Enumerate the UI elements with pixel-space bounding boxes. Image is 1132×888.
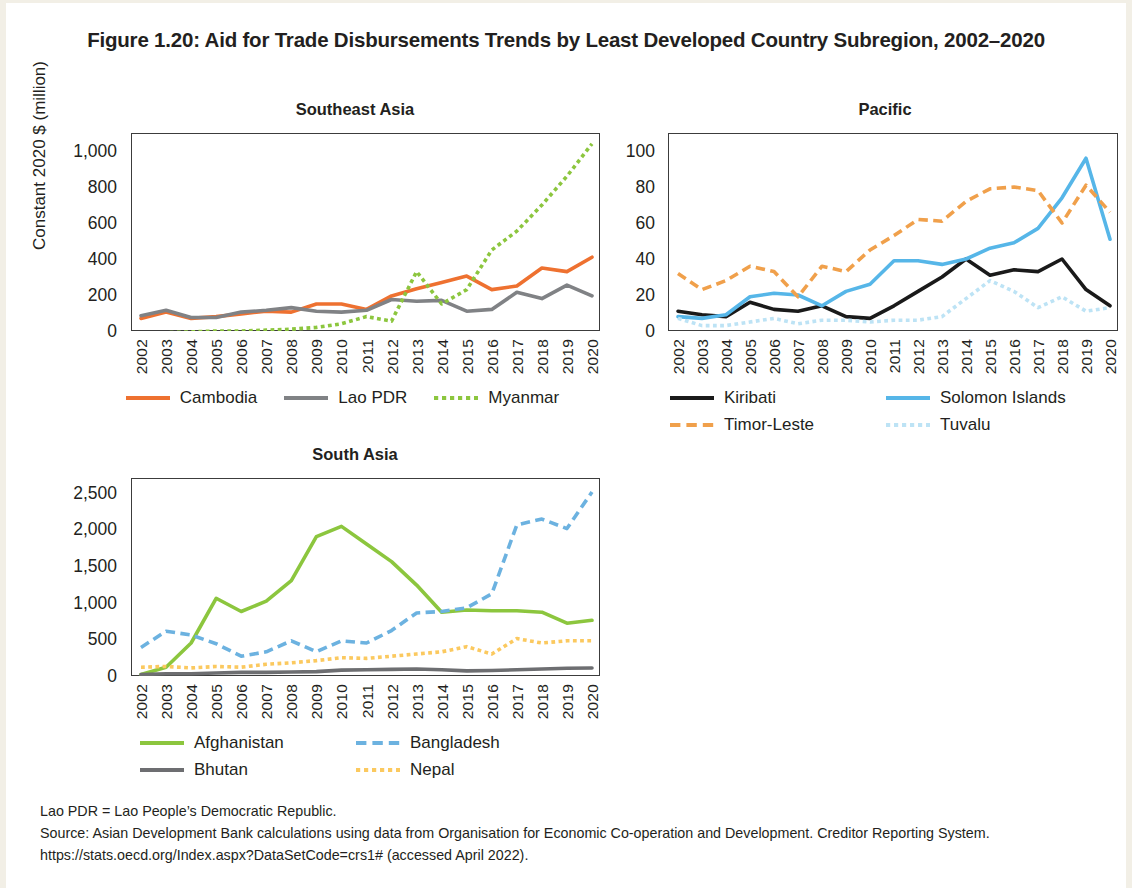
x-tick-label: 2007 <box>258 684 276 719</box>
x-axis-south-asia: 2002200320042005200620072008200920102011… <box>131 680 600 740</box>
legend-swatch-icon <box>355 734 401 752</box>
x-tick-label: 2012 <box>910 339 928 374</box>
legend-swatch-icon <box>139 761 185 779</box>
x-tick-label: 2012 <box>384 339 402 374</box>
y-tick-label: 400 <box>43 249 126 270</box>
x-tick-label: 2006 <box>233 684 251 719</box>
y-tick-label: 1,500 <box>41 556 126 577</box>
figure-notes: Lao PDR = Lao People’s Democratic Republ… <box>40 800 1100 866</box>
x-tick-label: 2002 <box>670 339 688 374</box>
x-tick-label: 2014 <box>434 684 452 719</box>
legend-item-nepal[interactable]: Nepal <box>355 760 545 780</box>
x-tick-label: 2019 <box>559 684 577 719</box>
legend-item-solomon-islands[interactable]: Solomon Islands <box>885 388 1075 408</box>
legend-item-cambodia[interactable]: Cambodia <box>125 388 258 408</box>
y-tick-label: 1,000 <box>43 141 126 162</box>
y-tick-label: 0 <box>41 666 126 687</box>
legend-item-kiribati[interactable]: Kiribati <box>669 388 859 408</box>
panel-southeast-asia: Southeast Asia 02004006008001,000 200220… <box>110 100 600 430</box>
note-abbreviation: Lao PDR = Lao People’s Democratic Republ… <box>40 800 1100 822</box>
x-tick-label: 2006 <box>766 339 784 374</box>
legend-label: Tuvalu <box>940 415 990 435</box>
x-axis-pacific: 2002200320042005200620072008200920102011… <box>668 335 1118 395</box>
legend-swatch-icon <box>885 389 931 407</box>
x-tick-label: 2006 <box>233 339 251 374</box>
x-tick-label: 2003 <box>694 339 712 374</box>
legend-swatch-icon <box>139 734 185 752</box>
x-tick-label: 2010 <box>333 339 351 374</box>
x-tick-label: 2013 <box>934 339 952 374</box>
y-tick-label: 200 <box>43 285 126 306</box>
legend-item-lao-pdr[interactable]: Lao PDR <box>283 388 407 408</box>
x-tick-label: 2016 <box>484 684 502 719</box>
legend-item-tuvalu[interactable]: Tuvalu <box>885 415 1075 435</box>
legend-label: Kiribati <box>724 388 776 408</box>
y-tick-label: 20 <box>593 285 664 306</box>
plot-area-pacific <box>668 133 1118 331</box>
x-tick-label: 2003 <box>158 339 176 374</box>
series-canvas-southeast-asia <box>131 133 600 331</box>
y-tick-label: 40 <box>593 249 664 270</box>
x-tick-label: 2019 <box>559 339 577 374</box>
note-source: Source: Asian Development Bank calculati… <box>40 822 1100 866</box>
legend-item-afghanistan[interactable]: Afghanistan <box>139 733 329 753</box>
x-tick-label: 2013 <box>409 339 427 374</box>
x-tick-label: 2017 <box>1030 339 1048 374</box>
legend-label: Lao PDR <box>338 388 407 408</box>
x-tick-label: 2008 <box>283 339 301 374</box>
plot-area-south-asia <box>131 478 600 676</box>
y-tick-label: 500 <box>41 629 126 650</box>
panel-title-southeast-asia: Southeast Asia <box>110 100 600 119</box>
y-tick-label: 80 <box>593 177 664 198</box>
x-tick-label: 2020 <box>584 684 602 719</box>
legend-southeast-asia: CambodiaLao PDRMyanmar <box>110 388 600 415</box>
x-tick-label: 2008 <box>814 339 832 374</box>
x-tick-label: 2014 <box>434 339 452 374</box>
x-tick-label: 2004 <box>183 339 201 374</box>
x-tick-label: 2019 <box>1078 339 1096 374</box>
series-line-myanmar <box>141 144 592 331</box>
legend-item-myanmar[interactable]: Myanmar <box>433 388 559 408</box>
x-tick-label: 2003 <box>158 684 176 719</box>
legend-item-bhutan[interactable]: Bhutan <box>139 760 329 780</box>
legend-swatch-icon <box>433 389 479 407</box>
legend-item-timor-leste[interactable]: Timor-Leste <box>669 415 859 435</box>
x-tick-label: 2004 <box>183 684 201 719</box>
legend-label: Timor-Leste <box>724 415 814 435</box>
legend-item-bangladesh[interactable]: Bangladesh <box>355 733 545 753</box>
x-tick-label: 2002 <box>133 339 151 374</box>
y-axis-south-asia: 05001,0001,5002,0002,500 <box>50 478 126 676</box>
panel-south-asia: South Asia 05001,0001,5002,0002,500 2002… <box>110 445 600 805</box>
x-axis-southeast-asia: 2002200320042005200620072008200920102011… <box>131 335 600 395</box>
series-line-kiribati <box>678 259 1110 318</box>
y-tick-label: 100 <box>593 141 664 162</box>
series-line-solomon-islands <box>678 158 1110 318</box>
x-tick-label: 2015 <box>459 684 477 719</box>
x-tick-label: 2018 <box>1054 339 1072 374</box>
x-tick-label: 2005 <box>208 684 226 719</box>
x-tick-label: 2020 <box>1102 339 1120 374</box>
legend-pacific: KiribatiSolomon IslandsTimor-LesteTuvalu <box>650 388 1120 442</box>
legend-south-asia: AfghanistanBangladeshBhutanNepal <box>110 733 600 787</box>
legend-swatch-icon <box>355 761 401 779</box>
legend-row: Timor-LesteTuvalu <box>650 415 1120 435</box>
x-tick-label: 2010 <box>862 339 880 374</box>
y-tick-label: 60 <box>593 213 664 234</box>
x-tick-label: 2011 <box>886 339 904 373</box>
x-tick-label: 2005 <box>742 339 760 374</box>
y-tick-label: 2,500 <box>41 482 126 503</box>
x-tick-label: 2015 <box>982 339 1000 374</box>
x-tick-label: 2018 <box>534 339 552 374</box>
x-tick-label: 2016 <box>484 339 502 374</box>
y-tick-label: 0 <box>43 321 126 342</box>
y-tick-label: 600 <box>43 213 126 234</box>
y-tick-label: 1,000 <box>41 592 126 613</box>
series-line-afghanistan <box>141 526 592 674</box>
x-tick-label: 2020 <box>584 339 602 374</box>
x-tick-label: 2018 <box>534 684 552 719</box>
legend-row: BhutanNepal <box>110 760 600 780</box>
x-tick-label: 2017 <box>509 684 527 719</box>
legend-swatch-icon <box>125 389 171 407</box>
legend-label: Nepal <box>410 760 454 780</box>
plot-area-southeast-asia <box>131 133 600 331</box>
